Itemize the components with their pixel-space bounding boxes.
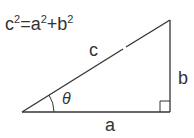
angle-arc [49,95,54,112]
label-a: a [105,115,116,135]
pythagorean-diagram: c2=a2+b2 c b a θ [0,0,194,138]
label-theta: θ [62,90,71,107]
label-c: c [89,40,98,60]
formula: c2=a2+b2 [5,13,73,34]
hypotenuse-line-upper [126,20,170,47]
label-b: b [178,68,188,88]
right-angle-marker [160,101,170,112]
hypotenuse-line-lower [22,49,123,112]
